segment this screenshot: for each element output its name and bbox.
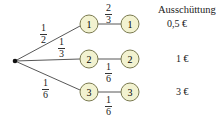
payout-3: 3 €	[176, 86, 189, 97]
prob-root-2-num: 1	[59, 37, 64, 47]
prob-root-1-num: 1	[41, 23, 46, 33]
prob-3-3: 1 6	[105, 95, 112, 117]
prob-root-3-num: 1	[43, 78, 48, 88]
node-l1-2-label: 2	[87, 54, 92, 65]
prob-1-1: 2 3	[105, 3, 112, 25]
prob-2-2-num: 1	[106, 62, 111, 72]
node-l2-3-label: 3	[128, 87, 133, 98]
prob-root-1-den: 2	[41, 35, 46, 45]
prob-2-2-den: 6	[106, 74, 111, 84]
node-l1-1-label: 1	[87, 19, 92, 30]
node-l2-2-label: 2	[128, 54, 133, 65]
prob-root-2-den: 3	[59, 49, 64, 59]
prob-root-1: 1 2	[40, 23, 47, 45]
payout-header: Ausschüttung	[158, 4, 216, 15]
edge-root-2	[15, 59, 80, 61]
prob-root-3-den: 6	[43, 90, 48, 100]
prob-2-2: 1 6	[105, 62, 112, 84]
prob-root-3: 1 6	[42, 78, 49, 100]
edge-root-1	[15, 26, 80, 61]
root-node	[13, 59, 18, 64]
prob-1-1-den: 3	[106, 15, 111, 25]
prob-1-1-num: 2	[106, 3, 111, 13]
prob-root-2: 1 3	[58, 37, 65, 59]
node-l1-3-label: 3	[87, 87, 92, 98]
payout-2: 1 €	[176, 53, 189, 64]
payout-1: 0,5 €	[167, 18, 187, 29]
tree-diagram: 1 2 3 1 2 3	[0, 0, 224, 119]
node-l2-1-label: 1	[128, 19, 133, 30]
prob-3-3-den: 6	[106, 107, 111, 117]
prob-3-3-num: 1	[106, 95, 111, 105]
